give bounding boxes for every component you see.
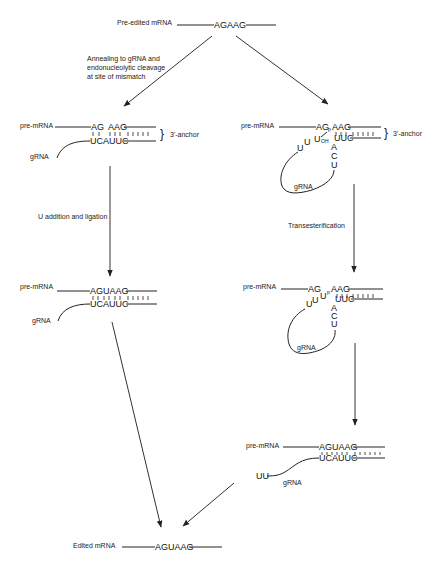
right-panel-cleaved: pre-mRNA AG p AAG U OH U U UUC A C U gRN… bbox=[241, 122, 423, 193]
svg-text:AGUAAG: AGUAAG bbox=[90, 286, 129, 296]
svg-text:}: } bbox=[384, 126, 388, 140]
svg-text:U: U bbox=[306, 299, 313, 309]
svg-text:AG: AG bbox=[91, 122, 104, 132]
svg-text:AGUAAG: AGUAAG bbox=[319, 442, 358, 452]
svg-text:endonucleolytic cleavage: endonucleolytic cleavage bbox=[87, 64, 165, 72]
left-panel-ligated: pre-mRNA AGUAAG UCAUUC gRNA bbox=[20, 283, 157, 325]
svg-text:3'-anchor: 3'-anchor bbox=[170, 131, 200, 138]
svg-text:U: U bbox=[312, 295, 319, 305]
svg-text:pre-mRNA: pre-mRNA bbox=[246, 442, 279, 450]
svg-text:pre-mRNA: pre-mRNA bbox=[241, 122, 274, 130]
right-panel-transesterified: pre-mRNA AG U U U p AAG UUC A C U gRNA bbox=[243, 283, 383, 354]
svg-text:AAG: AAG bbox=[331, 284, 350, 294]
svg-text:OH: OH bbox=[321, 138, 329, 144]
right-panel-final: pre-mRNA AGUAAG UCAUUC UU gRNA bbox=[246, 442, 385, 487]
svg-text:}: } bbox=[160, 127, 164, 141]
svg-text:gRNA: gRNA bbox=[294, 183, 313, 191]
svg-text:U: U bbox=[331, 160, 338, 170]
edited-label: Edited mRNA bbox=[73, 542, 116, 549]
arrow-to-left-pathway bbox=[124, 36, 212, 106]
svg-text:gRNA: gRNA bbox=[283, 479, 302, 487]
svg-text:pre-mRNA: pre-mRNA bbox=[20, 122, 53, 130]
arrow-left-to-edited bbox=[112, 322, 161, 527]
svg-text:UCAUUC: UCAUUC bbox=[319, 453, 358, 463]
pre-edited-label: Pre-edited mRNA bbox=[117, 19, 172, 26]
svg-text:3'-anchor: 3'-anchor bbox=[393, 130, 423, 137]
svg-text:UCAUUC: UCAUUC bbox=[90, 299, 129, 309]
svg-text:U: U bbox=[304, 137, 311, 147]
svg-text:pre-mRNA: pre-mRNA bbox=[243, 283, 276, 291]
svg-text:p: p bbox=[327, 289, 330, 295]
pre-edited-mrna: Pre-edited mRNA AGAAG bbox=[117, 19, 276, 30]
arrow-right-to-edited bbox=[183, 483, 234, 526]
pre-edited-sequence: AGAAG bbox=[214, 20, 246, 30]
arrow-to-right-pathway bbox=[236, 36, 328, 104]
svg-text:gRNA: gRNA bbox=[30, 153, 49, 161]
svg-text:UCAUUC: UCAUUC bbox=[90, 136, 129, 146]
svg-text:pre-mRNA: pre-mRNA bbox=[20, 283, 53, 291]
edited-mrna: Edited mRNA AGUAAG bbox=[73, 542, 222, 552]
svg-text:gRNA: gRNA bbox=[297, 344, 316, 352]
svg-text:U: U bbox=[297, 143, 304, 153]
rna-editing-diagram: Pre-edited mRNA AGAAG Annealing to gRNA … bbox=[0, 0, 434, 565]
svg-text:U: U bbox=[320, 291, 327, 301]
edited-sequence: AGUAAG bbox=[155, 542, 194, 552]
left-panel-cleaved: pre-mRNA AG AAG UCAUUC gRNA } 3'-anchor bbox=[20, 122, 200, 161]
u-addition-label: U addition and ligation bbox=[38, 213, 107, 221]
svg-text:gRNA: gRNA bbox=[32, 317, 51, 325]
svg-text:U: U bbox=[331, 319, 338, 329]
transesterification-label: Transesterification bbox=[288, 222, 345, 229]
svg-text:U: U bbox=[314, 134, 321, 144]
svg-text:Annealing to gRNA and: Annealing to gRNA and bbox=[87, 55, 160, 63]
svg-text:p: p bbox=[328, 126, 331, 132]
annealing-step-label: Annealing to gRNA and endonucleolytic cl… bbox=[87, 55, 165, 80]
svg-text:UU: UU bbox=[256, 471, 269, 481]
svg-text:at site of mismatch: at site of mismatch bbox=[87, 73, 145, 80]
